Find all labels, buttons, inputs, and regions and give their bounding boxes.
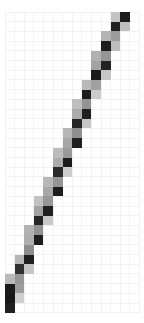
heatmap-cell: [91, 90, 101, 100]
heatmap-cell: [15, 255, 25, 265]
heatmap-cell: [63, 167, 73, 177]
heatmap-cell: [34, 235, 44, 245]
heatmap-cell: [63, 128, 73, 138]
heatmap-cell: [24, 264, 34, 274]
heatmap-cell: [91, 61, 101, 71]
heatmap-cell: [72, 109, 82, 119]
heatmap-cell: [101, 31, 111, 41]
heatmap-cell: [91, 80, 101, 90]
heatmap-cell: [53, 177, 63, 187]
heatmap-cell: [53, 148, 63, 158]
heatmap-cell: [101, 70, 111, 80]
heatmap-cell: [82, 119, 92, 129]
heatmap-cell: [53, 187, 63, 197]
heatmap-cell: [43, 177, 53, 187]
heatmap-cell: [82, 80, 92, 90]
heatmap-cell: [111, 12, 121, 22]
heatmap-cell: [91, 70, 101, 80]
heatmap-cell: [15, 293, 25, 303]
heatmap-cell: [72, 138, 82, 148]
heatmap-cell: [82, 99, 92, 109]
heatmap-cell: [24, 255, 34, 265]
heatmap-cell: [63, 148, 73, 158]
heatmap-cell: [15, 274, 25, 284]
heatmap-cell: [111, 22, 121, 32]
heatmap-cell: [101, 61, 111, 71]
heatmap-cell: [111, 31, 121, 41]
heatmap-cell: [53, 167, 63, 177]
heatmap-cell: [24, 235, 34, 245]
heatmap-cell: [63, 138, 73, 148]
heatmap-cell: [24, 225, 34, 235]
heatmap-cell: [91, 51, 101, 61]
heatmap-cell: [53, 158, 63, 168]
heatmap-cell: [34, 206, 44, 216]
heatmap-cell: [43, 216, 53, 226]
heatmap-cell: [120, 22, 130, 32]
heatmap-cell: [43, 196, 53, 206]
heatmap-cell: [43, 206, 53, 216]
heatmap-cells: [0, 0, 144, 323]
heatmap-cell: [101, 51, 111, 61]
heatmap-cell: [63, 158, 73, 168]
heatmap-cell: [72, 128, 82, 138]
heatmap-cell: [34, 225, 44, 235]
heatmap-cell: [82, 90, 92, 100]
heatmap-cell: [15, 264, 25, 274]
heatmap-cell: [111, 41, 121, 51]
heatmap-cell: [34, 196, 44, 206]
heatmap-cell: [101, 41, 111, 51]
heatmap-cell: [5, 284, 15, 294]
heatmap-cell: [5, 303, 15, 313]
heatmap-cell: [15, 284, 25, 294]
heatmap-cell: [5, 274, 15, 284]
heatmap-cell: [72, 99, 82, 109]
heatmap-cell: [72, 119, 82, 129]
heatmap-cell: [82, 109, 92, 119]
plot-area: [0, 0, 144, 323]
heatmap-cell: [34, 216, 44, 226]
heatmap-cell: [24, 245, 34, 255]
heatmap-cell: [120, 12, 130, 22]
heatmap-figure: [0, 0, 144, 323]
heatmap-cell: [43, 187, 53, 197]
heatmap-cell: [5, 293, 15, 303]
